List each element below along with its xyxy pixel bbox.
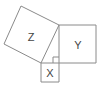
right-angle-marker xyxy=(53,57,59,63)
label-x: X xyxy=(46,67,54,79)
label-y: Y xyxy=(74,39,82,51)
pythagorean-diagram: Z Y X xyxy=(0,0,101,90)
label-z: Z xyxy=(28,31,35,43)
